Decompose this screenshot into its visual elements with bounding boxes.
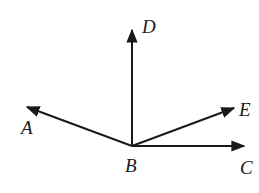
angle-diagram: D A E C B: [0, 0, 259, 193]
label-a: A: [19, 117, 33, 138]
ray-ba: [27, 107, 132, 146]
label-b: B: [125, 155, 137, 176]
label-c: C: [240, 157, 253, 178]
label-d: D: [141, 16, 156, 37]
ray-be: [132, 108, 234, 146]
diagram-svg: D A E C B: [0, 0, 259, 193]
label-e: E: [238, 99, 251, 120]
